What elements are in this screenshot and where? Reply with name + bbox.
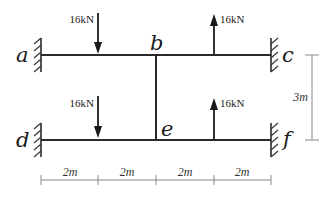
node-label-e: e [161, 117, 173, 141]
node-label-f: f [281, 127, 294, 151]
load-down-bottom [94, 96, 102, 138]
node-label-c: c [282, 43, 294, 67]
node-label-b: b [150, 31, 163, 55]
node-label-d: d [16, 128, 29, 152]
support-d [34, 123, 41, 157]
dim-label-1: 2m [63, 165, 78, 179]
load-label-down-top: 16kN [70, 13, 95, 25]
node-label-a: a [16, 43, 29, 67]
load-down-top [94, 13, 102, 54]
load-label-up-bottom: 16kN [220, 97, 245, 109]
dim-label-3: 2m [178, 165, 193, 179]
support-f [271, 123, 278, 157]
support-a [34, 38, 41, 72]
dim-label-4: 2m [235, 165, 250, 179]
load-up-top [210, 14, 218, 54]
support-c [271, 38, 278, 72]
load-label-down-bottom: 16kN [70, 97, 95, 109]
dim-label-vertical: 3m [292, 90, 308, 104]
frame-diagram: 16kN 16kN 16kN 16kN a b c d e f 2m 2m 2m… [0, 0, 332, 204]
load-label-up-top: 16kN [220, 13, 245, 25]
load-up-bottom [210, 98, 218, 139]
dim-label-2: 2m [120, 165, 135, 179]
